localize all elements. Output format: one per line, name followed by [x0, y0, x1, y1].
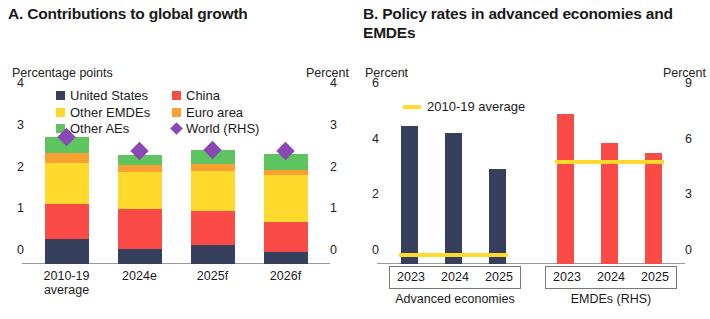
- bar-segment-other-emdes: [191, 171, 235, 211]
- bar-segment-united-states: [191, 245, 235, 264]
- panel-a-ytick-right-2: 2: [330, 160, 337, 174]
- panel-b-ytick-left-0: 0: [372, 243, 379, 257]
- panel-b-ytick-right-3: 3: [685, 187, 692, 201]
- panel-a-ytick-left-0: 0: [17, 243, 24, 257]
- panel-b-plot-area: 64209630202320242025Advanced economies20…: [385, 97, 677, 264]
- bar-segment-united-states: [118, 249, 162, 264]
- bar-segment-united-states: [45, 239, 89, 264]
- panel-a-ytick-right-3: 3: [330, 118, 337, 132]
- bar-segment-china: [264, 222, 308, 252]
- panel-b-xtick-label: 2024: [441, 270, 469, 284]
- panel-b-xtick-label: 2025: [641, 270, 669, 284]
- panel-a-ytick-left-2: 2: [17, 160, 24, 174]
- bar-segment-euro-area: [118, 165, 162, 172]
- panel-b-ytick-left-4: 4: [372, 132, 379, 146]
- panel-a-title: A. Contributions to global growth: [8, 4, 348, 23]
- bar-segment-china: [45, 204, 89, 239]
- panel-b-xtick-label: 2023: [397, 270, 425, 284]
- panel-a-xtick-label: 2026f: [270, 269, 301, 283]
- panel-b-ytick-right-6: 6: [685, 132, 692, 146]
- bar-segment-other-emdes: [118, 172, 162, 210]
- bar-segment-china: [191, 211, 235, 245]
- panel-b-group-years: 202320242025: [545, 270, 677, 284]
- panel-b-group-years: 202320242025: [389, 270, 521, 284]
- panel-a-ytick-right-1: 1: [330, 201, 337, 215]
- panel-b-baseline: [377, 263, 685, 264]
- bar-segment-other-emdes: [45, 163, 89, 203]
- panel-a-xtick-label: 2024e: [122, 269, 157, 283]
- panel-b-bar-advanced-economies-2025: [489, 169, 506, 264]
- panel-a-right-axis-unit: Percent: [306, 66, 349, 80]
- panel-a-xtick-label: 2025f: [197, 269, 228, 283]
- panel-b-ytick-right-0: 0: [685, 243, 692, 257]
- panel-b-average-line-advanced-economies: [399, 253, 508, 257]
- panel-a-plot-area: 43210432102010-19average2024e2025f2026f: [30, 97, 322, 264]
- panel-a-ytick-right-4: 4: [330, 76, 337, 90]
- panel-b-xtick-label: 2024: [597, 270, 625, 284]
- bar-segment-euro-area: [191, 164, 235, 171]
- panel-b-average-line-emdes-rhs-: [555, 160, 664, 164]
- panel-a-ytick-left-3: 3: [17, 118, 24, 132]
- panel-b-group-name: EMDEs (RHS): [545, 292, 677, 306]
- panel-a-ytick-right-0: 0: [330, 243, 337, 257]
- bar-segment-china: [118, 209, 162, 249]
- panel-b-ytick-left-2: 2: [372, 187, 379, 201]
- panel-b: B. Policy rates in advanced economies an…: [355, 0, 710, 319]
- panel-b-bar-emdes-rhs--2023: [557, 114, 574, 264]
- panel-b-xtick-label: 2025: [485, 270, 513, 284]
- panel-b-bar-advanced-economies-2024: [445, 133, 462, 264]
- panel-a: A. Contributions to global growth Percen…: [0, 0, 355, 319]
- panel-b-ytick-left-6: 6: [372, 76, 379, 90]
- panel-b-ytick-right-9: 9: [685, 76, 692, 90]
- figure-container: A. Contributions to global growth Percen…: [0, 0, 710, 319]
- panel-b-group-name: Advanced economies: [389, 292, 521, 306]
- panel-b-title: B. Policy rates in advanced economies an…: [363, 4, 703, 42]
- panel-b-bar-emdes-rhs--2025: [645, 153, 662, 264]
- panel-a-ytick-left-4: 4: [17, 76, 24, 90]
- bar-segment-euro-area: [45, 153, 89, 164]
- panel-a-xtick-label: 2010-19average: [44, 269, 90, 297]
- panel-b-xtick-label: 2023: [553, 270, 581, 284]
- bar-segment-other-emdes: [264, 175, 308, 222]
- bar-segment-euro-area: [264, 170, 308, 175]
- bar-segment-united-states: [264, 252, 308, 264]
- panel-b-bar-advanced-economies-2023: [401, 126, 418, 264]
- panel-a-left-axis-unit: Percentage points: [12, 66, 113, 80]
- panel-a-ytick-left-1: 1: [17, 201, 24, 215]
